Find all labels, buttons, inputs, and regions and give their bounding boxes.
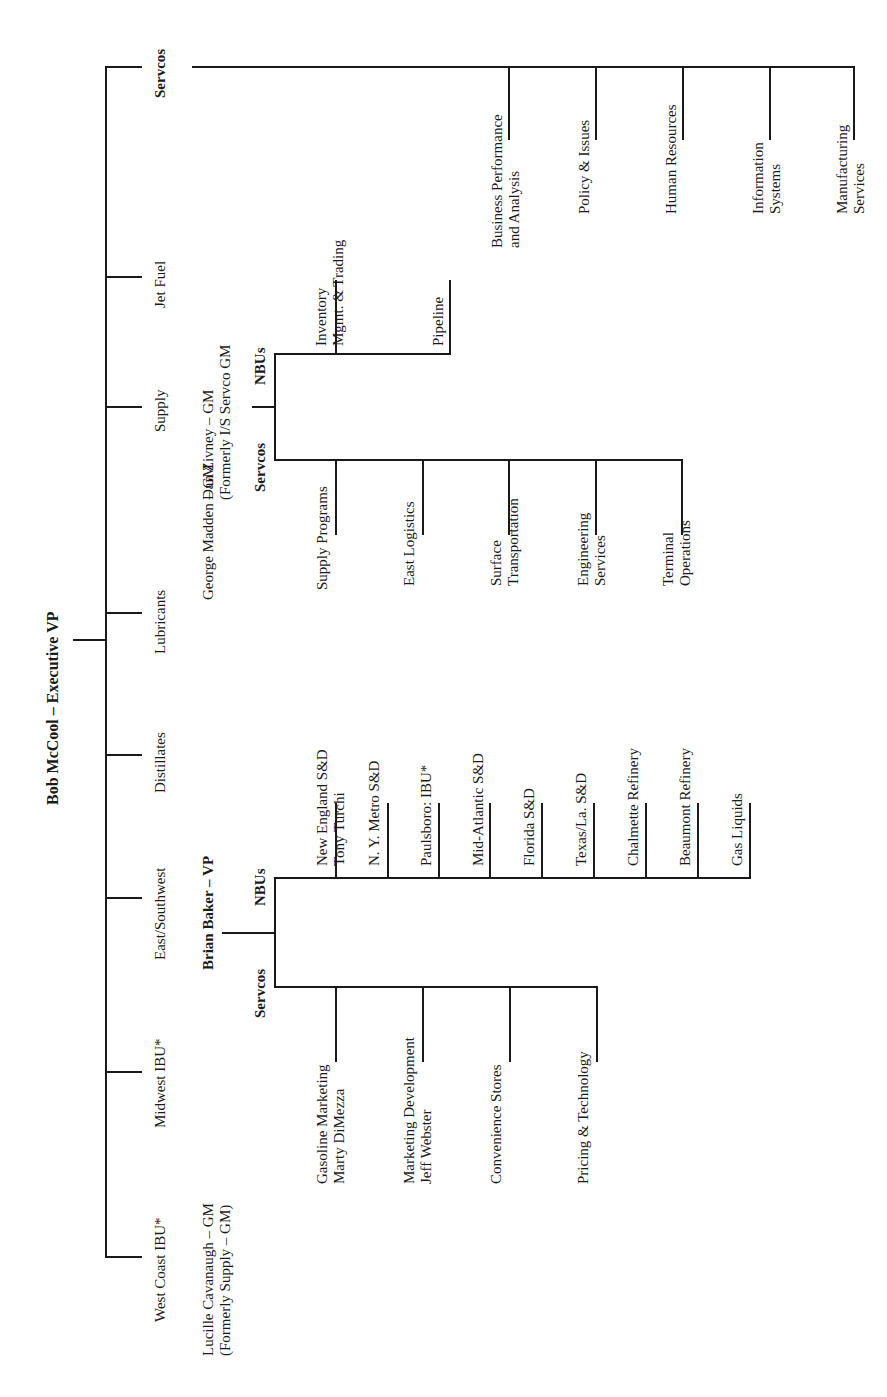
division-distillates: Distillates <box>152 732 169 793</box>
esw-nbu-drop <box>541 803 543 878</box>
esw-servco-convenience-stores: Convenience Stores <box>488 1064 505 1184</box>
esw-nbu-mid-atlantic: Mid-Atlantic S&D <box>470 753 487 866</box>
root-title: Bob McCool – Executive VP <box>44 612 61 805</box>
supply-nbu-pipeline: Pipeline <box>430 297 447 346</box>
esw-connector <box>222 932 276 934</box>
esw-nbu-texas-la: Texas/La. S&D <box>573 773 590 866</box>
tick-servcos <box>105 66 142 68</box>
esw-nbu-drop <box>438 803 440 878</box>
servco-policy-issues: Policy & Issues <box>576 120 593 214</box>
supply-nbu-inventory: InventoryMgmt. & Trading <box>313 240 347 346</box>
servco-business-performance: Business Performanceand Analysis <box>489 114 523 248</box>
root-connector <box>73 639 106 641</box>
esw-nbu-ny-metro: N. Y. Metro S&D <box>366 761 383 866</box>
esw-servco-marketing-development: Marketing DevelopmentJeff Webster <box>401 1037 435 1184</box>
esw-nbu-bar <box>274 877 751 879</box>
esw-servco-pricing-technology: Pricing & Technology <box>575 1051 592 1184</box>
supply-servco-programs: Supply Programs <box>314 486 331 590</box>
esw-nbu-gas-liquids: Gas Liquids <box>729 793 746 866</box>
tick-supply <box>105 406 142 408</box>
supply-servco-east-logistics: East Logistics <box>401 501 418 586</box>
esw-nbu-florida: Florida S&D <box>521 788 538 866</box>
servcos-drop <box>769 66 771 140</box>
supply-nbu-bar <box>274 353 451 355</box>
division-east-southwest: East/Southwest <box>152 868 169 961</box>
tick-lubricants <box>105 612 142 614</box>
esw-servco-drop <box>509 986 511 1062</box>
esw-nbu-drop <box>593 803 595 878</box>
supply-servco-drop <box>335 459 337 535</box>
supply-bracket <box>274 353 276 461</box>
servco-human-resources: Human Resources <box>663 104 680 214</box>
division-west-coast: West Coast IBU* <box>152 1217 169 1322</box>
division-midwest: Midwest IBU* <box>152 1038 169 1128</box>
manager-lucille-cavanaugh: Lucille Cavanaugh – GM(Formerly Supply –… <box>200 1203 234 1356</box>
servcos-drop <box>595 66 597 140</box>
division-lubricants: Lubricants <box>152 590 169 654</box>
esw-servcos-label: Servcos <box>252 969 269 1018</box>
servco-manufacturing-services: ManufacturingServices <box>834 125 868 214</box>
manager-brian-baker: Brian Baker – VP <box>200 856 217 970</box>
esw-nbus-label: NBUs <box>252 868 269 906</box>
esw-nbu-drop <box>489 803 491 878</box>
tick-west-coast <box>105 1256 142 1258</box>
supply-servco-surface: SurfaceTransportation <box>488 498 522 586</box>
esw-nbu-drop <box>387 803 389 878</box>
esw-servco-gasoline-marketing: Gasoline MarketingMarty DiMezza <box>314 1064 348 1184</box>
supply-nbus-label: NBUs <box>252 347 269 385</box>
supply-nbu-drop <box>449 280 451 354</box>
esw-nbu-drop <box>645 803 647 878</box>
esw-nbu-drop <box>749 803 751 878</box>
esw-nbu-drop <box>697 803 699 878</box>
esw-nbu-paulsboro: Paulsboro: IBU* <box>418 765 435 866</box>
servco-information-systems: InformationSystems <box>750 142 784 214</box>
supply-servco-terminal: TerminalOperations <box>660 520 694 586</box>
esw-nbu-beaumont: Beaumont Refinery <box>677 748 694 866</box>
esw-servco-bar <box>274 986 598 988</box>
manager-dan-zivney: Dan Zivney – GM(Formerly I/S Servco GM <box>200 345 234 500</box>
esw-nbu-new-england: New England S&DTony Turchi <box>314 749 348 866</box>
division-jet-fuel: Jet Fuel <box>152 261 169 308</box>
supply-connector <box>252 406 276 408</box>
esw-servco-drop <box>596 986 598 1062</box>
division-supply: Supply <box>152 389 169 432</box>
supply-servco-engineering: EngineeringServices <box>575 513 609 586</box>
tick-jet-fuel <box>105 276 142 278</box>
main-spine <box>105 66 107 1258</box>
esw-bracket <box>274 877 276 988</box>
supply-servco-drop <box>422 459 424 535</box>
tick-east-southwest <box>105 897 142 899</box>
division-servcos: Servcos <box>152 49 169 98</box>
esw-nbu-chalmette: Chalmette Refinery <box>625 748 642 866</box>
esw-servco-drop <box>335 986 337 1062</box>
servcos-drop <box>682 66 684 140</box>
tick-distillates <box>105 754 142 756</box>
servcos-bar <box>192 66 855 68</box>
supply-servcos-label: Servcos <box>252 443 269 492</box>
tick-midwest <box>105 1071 142 1073</box>
